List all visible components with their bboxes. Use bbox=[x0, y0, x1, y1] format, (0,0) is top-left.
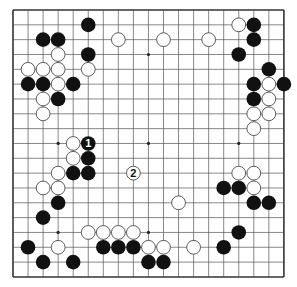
white-stone bbox=[126, 226, 140, 240]
go-board-diagram: 12 bbox=[0, 0, 297, 287]
white-stone bbox=[51, 48, 65, 62]
black-stone bbox=[247, 18, 262, 33]
white-stone bbox=[51, 166, 65, 180]
white-stone bbox=[247, 166, 261, 180]
white-stone bbox=[247, 181, 261, 195]
white-stone bbox=[36, 107, 50, 121]
white-stone bbox=[262, 107, 276, 121]
black-stone bbox=[21, 77, 36, 92]
star-point bbox=[147, 53, 150, 56]
white-stone bbox=[51, 62, 65, 76]
black-stone bbox=[156, 255, 171, 270]
white-stone bbox=[111, 226, 125, 240]
white-stone bbox=[81, 62, 95, 76]
black-stone bbox=[66, 166, 81, 181]
black-stone bbox=[81, 18, 96, 33]
black-stone bbox=[277, 77, 292, 92]
white-stone bbox=[142, 240, 156, 254]
white-stone bbox=[36, 92, 50, 106]
star-point bbox=[57, 231, 60, 234]
white-stone bbox=[36, 181, 50, 195]
white-stone bbox=[172, 196, 186, 210]
white-stone bbox=[157, 33, 171, 47]
white-stone bbox=[247, 107, 261, 121]
black-stone bbox=[81, 151, 96, 166]
white-stone bbox=[21, 62, 35, 76]
black-stone bbox=[216, 181, 231, 196]
black-stone bbox=[126, 240, 141, 255]
white-stone bbox=[232, 18, 246, 32]
black-stone bbox=[231, 181, 246, 196]
white-stone bbox=[51, 77, 65, 91]
black-stone bbox=[36, 32, 51, 47]
black-stone bbox=[247, 92, 262, 107]
white-stone bbox=[247, 122, 261, 136]
star-point bbox=[147, 231, 150, 234]
white-stone bbox=[111, 33, 125, 47]
black-stone bbox=[216, 240, 231, 255]
white-stone bbox=[36, 62, 50, 76]
black-stone bbox=[66, 255, 81, 270]
move-number-label: 1 bbox=[85, 137, 91, 149]
black-stone bbox=[231, 47, 246, 62]
black-stone bbox=[81, 47, 96, 62]
black-stone bbox=[247, 77, 262, 92]
white-stone bbox=[66, 137, 80, 151]
white-stone bbox=[187, 240, 201, 254]
white-stone bbox=[81, 226, 95, 240]
white-stone bbox=[262, 92, 276, 106]
black-stone bbox=[247, 32, 262, 47]
white-stone bbox=[157, 240, 171, 254]
black-stone bbox=[21, 240, 36, 255]
black-stone bbox=[141, 255, 156, 270]
black-stone bbox=[231, 225, 246, 240]
white-stone bbox=[232, 166, 246, 180]
black-stone bbox=[51, 32, 66, 47]
go-board: 12 bbox=[0, 0, 297, 287]
black-stone bbox=[262, 195, 277, 210]
black-stone bbox=[66, 77, 81, 92]
star-point bbox=[237, 142, 240, 145]
black-stone bbox=[36, 255, 51, 270]
white-stone bbox=[51, 240, 65, 254]
black-stone bbox=[81, 166, 96, 181]
black-stone bbox=[51, 195, 66, 210]
black-stone bbox=[247, 195, 262, 210]
white-stone bbox=[66, 151, 80, 165]
black-stone bbox=[36, 210, 51, 225]
white-stone bbox=[51, 181, 65, 195]
black-stone bbox=[96, 240, 111, 255]
move-number-label: 2 bbox=[130, 167, 136, 179]
white-stone bbox=[262, 77, 276, 91]
black-stone bbox=[262, 62, 277, 77]
white-stone bbox=[96, 226, 110, 240]
white-stone bbox=[202, 33, 216, 47]
black-stone bbox=[51, 92, 66, 107]
black-stone bbox=[36, 77, 51, 92]
star-point bbox=[147, 142, 150, 145]
black-stone bbox=[111, 240, 126, 255]
star-point bbox=[57, 142, 60, 145]
